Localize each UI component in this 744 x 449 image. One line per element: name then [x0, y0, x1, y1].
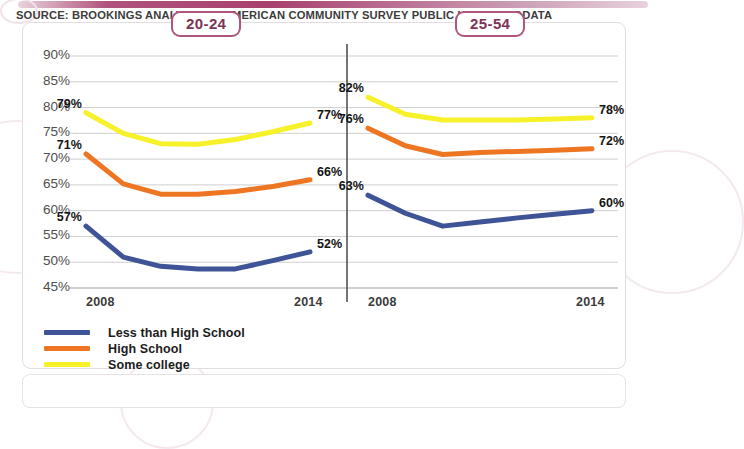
value-label-end: 72%: [599, 134, 624, 148]
decorative-top-bar: [18, 1, 648, 8]
legend-swatch-icon: [44, 330, 90, 335]
y-tick-label: 90%: [26, 47, 70, 62]
value-label-start: 79%: [52, 97, 82, 111]
value-label-end: 60%: [599, 196, 624, 210]
y-tick-label: 65%: [26, 176, 70, 191]
value-label-end: 66%: [317, 165, 342, 179]
legend-item: Less than High School: [44, 325, 245, 340]
source-card: [22, 374, 626, 408]
value-label-end: 52%: [317, 237, 342, 251]
value-label-start: 76%: [334, 112, 364, 126]
chart-legend: Less than High SchoolHigh SchoolSome col…: [44, 325, 245, 373]
legend-label: Some college: [108, 358, 190, 372]
legend-label: High School: [108, 342, 182, 356]
legend-swatch-icon: [44, 362, 90, 367]
value-label-start: 71%: [52, 138, 82, 152]
y-tick-label: 45%: [26, 279, 70, 294]
value-label-start: 63%: [334, 179, 364, 193]
y-tick-label: 70%: [26, 150, 70, 165]
age-group-tab-20-24[interactable]: 20-24: [171, 11, 241, 37]
value-label-start: 82%: [334, 81, 364, 95]
x-tick-label: 2014: [576, 295, 605, 309]
value-label-end: 78%: [599, 103, 624, 117]
y-tick-label: 50%: [26, 253, 70, 268]
y-tick-label: 85%: [26, 73, 70, 88]
chart-card: [22, 22, 626, 369]
x-tick-label: 2008: [368, 295, 397, 309]
y-axis: 90%85%80%75%70%65%60%55%50%45%: [26, 0, 70, 347]
y-tick-label: 55%: [26, 227, 70, 242]
x-tick-label: 2014: [294, 295, 323, 309]
value-label-start: 57%: [52, 210, 82, 224]
legend-item: Some college: [44, 357, 245, 372]
legend-item: High School: [44, 341, 245, 356]
legend-swatch-icon: [44, 346, 90, 351]
age-group-tab-25-54[interactable]: 25-54: [455, 11, 525, 37]
x-tick-label: 2008: [86, 295, 115, 309]
legend-label: Less than High School: [108, 326, 245, 340]
